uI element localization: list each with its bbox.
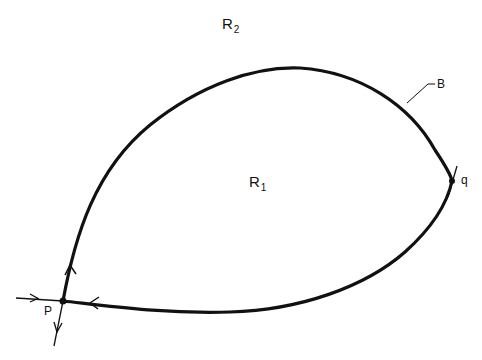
point-q-dot <box>449 178 455 184</box>
boundary-curve-b <box>63 68 452 312</box>
label-r2-base: R <box>222 15 233 32</box>
boundary-leader-line <box>407 84 435 103</box>
point-p-dot <box>60 298 67 305</box>
label-point-p: P <box>44 305 52 317</box>
label-r1-base: R <box>249 173 260 190</box>
diagram-svg <box>0 0 482 360</box>
arrow-right-icon <box>30 294 38 302</box>
label-r1: R1 <box>249 174 266 190</box>
diagram-canvas: R2 R1 B P q <box>0 0 482 360</box>
label-point-q: q <box>461 174 468 186</box>
arrow-left-icon <box>90 297 99 309</box>
label-r1-sub: 1 <box>261 182 267 193</box>
label-r2: R2 <box>222 16 239 32</box>
label-r2-sub: 2 <box>234 24 240 35</box>
incoming-trajectory-left <box>16 298 63 301</box>
label-boundary-b: B <box>437 78 445 90</box>
